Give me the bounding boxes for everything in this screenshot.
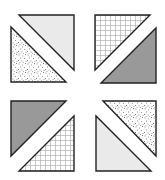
- block-bottom-left: [11, 101, 74, 171]
- block-top-right: [95, 15, 156, 83]
- block-top-left: [11, 15, 74, 82]
- block-bottom-right: [96, 101, 156, 171]
- quilt-diagram: [0, 0, 165, 180]
